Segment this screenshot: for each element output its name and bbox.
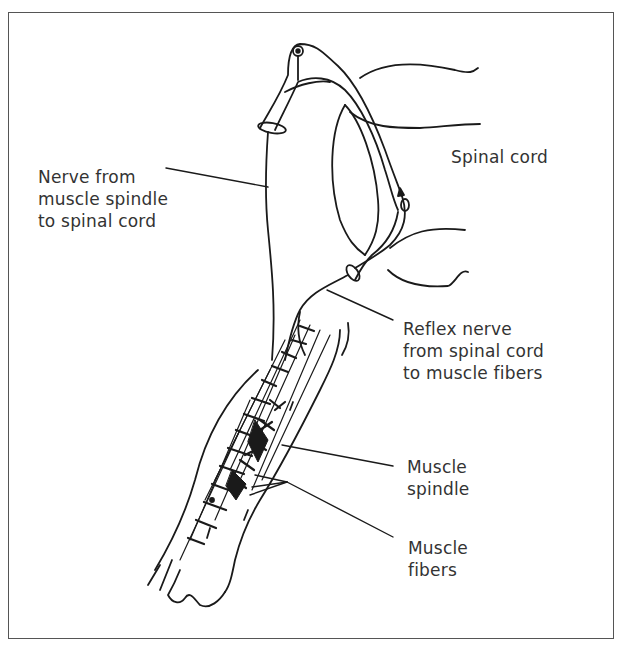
label-spinal-cord: Spinal cord bbox=[451, 146, 548, 168]
leader-muscle-fibers bbox=[250, 475, 393, 537]
label-nerve-from-muscle-spindle: Nerve from muscle spindle to spinal cord bbox=[38, 166, 168, 232]
leader-muscle-spindle bbox=[282, 445, 393, 466]
muscle-body bbox=[148, 320, 349, 606]
leader-reflex-nerve bbox=[327, 290, 393, 320]
label-muscle-fibers: Muscle fibers bbox=[408, 537, 468, 581]
leader-nerve-to-cord bbox=[166, 168, 268, 187]
dorsal-root-ganglion bbox=[257, 44, 409, 283]
label-reflex-nerve: Reflex nerve from spinal cord to muscle … bbox=[403, 318, 544, 384]
sensory-nerve-line bbox=[266, 132, 274, 360]
spinal-cord-shape bbox=[350, 64, 480, 286]
label-muscle-spindle: Muscle spindle bbox=[407, 456, 470, 500]
